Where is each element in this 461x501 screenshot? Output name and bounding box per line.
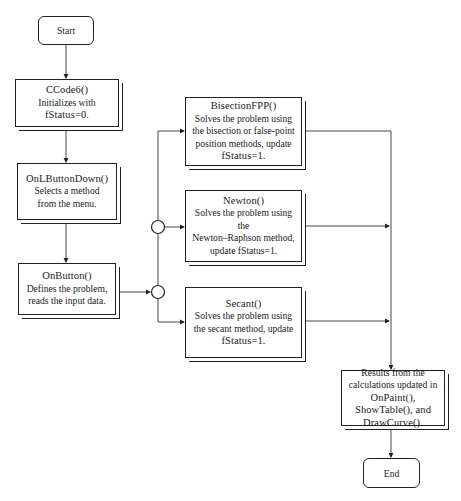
newton-process-box: Newton() Solves the problem using the Ne… bbox=[185, 190, 302, 262]
secant-line-1: Solves the problem using bbox=[195, 310, 292, 322]
newton-title: Newton() bbox=[223, 195, 264, 207]
bisection-line-3: position methods, update bbox=[195, 138, 291, 150]
results-line-4: ShowTable(), and bbox=[355, 404, 431, 416]
onbutton-line-2: reads the input data. bbox=[28, 295, 105, 307]
results-line-3: OnPaint(), bbox=[370, 392, 415, 404]
ccode6-title: CCode6() bbox=[46, 84, 88, 96]
start-terminal: Start bbox=[38, 16, 94, 45]
junction-circle-lower bbox=[152, 286, 165, 299]
results-line-2: calculations updated in bbox=[349, 379, 437, 391]
results-line-5: DrawCurve(). bbox=[363, 417, 423, 429]
junction-circle-upper bbox=[152, 221, 165, 234]
secant-title: Secant() bbox=[226, 298, 262, 310]
results-line-1: Results from the bbox=[361, 367, 424, 379]
onlbuttondown-title: OnLButtonDown() bbox=[26, 173, 108, 185]
newton-line-3: update fStatus=1. bbox=[210, 245, 277, 257]
ccode6-line-1: Initializes with bbox=[38, 97, 95, 109]
onbutton-line-1: Defines the problem, bbox=[27, 283, 108, 295]
secant-line-3: fStatus=1. bbox=[222, 335, 266, 347]
newton-line-2: Newton–Raphson method, bbox=[192, 232, 294, 244]
ccode6-line-2: fStatus=0. bbox=[45, 109, 89, 121]
onbutton-title: OnButton() bbox=[42, 270, 91, 282]
end-label: End bbox=[384, 468, 399, 479]
bisection-line-2: the bisection or false-point bbox=[192, 125, 295, 137]
newton-line-1: Solves the problem using the bbox=[189, 207, 298, 232]
bisection-line-4: fStatus=1. bbox=[222, 150, 266, 162]
secant-line-2: the secant method, update bbox=[194, 323, 294, 335]
onlbuttondown-line-2: from the menu. bbox=[38, 198, 97, 210]
onlbuttondown-process-box: OnLButtonDown() Selects a method from th… bbox=[17, 163, 117, 220]
bisection-process-box: BisectionFPP() Solves the problem using … bbox=[185, 97, 302, 166]
bisection-title: BisectionFPP() bbox=[211, 100, 277, 112]
ccode6-process-box: CCode6() Initializes with fStatus=0. bbox=[15, 79, 119, 127]
secant-process-box: Secant() Solves the problem using the se… bbox=[185, 287, 302, 358]
results-process-box: Results from the calculations updated in… bbox=[341, 370, 445, 426]
bisection-line-1: Solves the problem using bbox=[195, 113, 292, 125]
onlbuttondown-line-1: Selects a method bbox=[34, 185, 99, 197]
end-terminal: End bbox=[363, 458, 420, 488]
onbutton-process-box: OnButton() Defines the problem, reads th… bbox=[18, 263, 116, 315]
start-label: Start bbox=[57, 25, 75, 36]
